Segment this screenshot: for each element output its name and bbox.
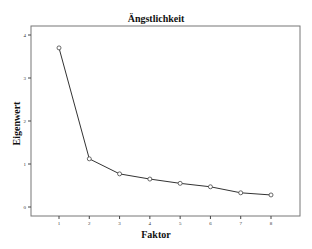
y-tick-label: 1 — [24, 162, 27, 167]
x-tick-label: 4 — [149, 221, 152, 226]
data-point-marker — [118, 172, 122, 176]
eigenvalue-line — [59, 48, 271, 195]
y-tick-label: 4 — [24, 33, 27, 38]
data-point-marker — [57, 46, 61, 50]
y-tick-label: 2 — [24, 119, 27, 124]
y-tick-label: 3 — [24, 76, 27, 81]
data-point-marker — [208, 185, 212, 189]
x-tick-label: 6 — [209, 221, 212, 226]
data-point-marker — [148, 177, 152, 181]
y-axis-label: Eigenwert — [11, 94, 22, 154]
x-tick-label: 1 — [58, 221, 61, 226]
x-tick-label: 2 — [88, 221, 91, 226]
x-tick-label: 5 — [179, 221, 182, 226]
y-tick-label: 0 — [24, 205, 27, 210]
plot-frame — [31, 26, 300, 216]
data-point-marker — [87, 157, 91, 161]
x-axis-label: Faktor — [0, 229, 312, 240]
data-point-marker — [178, 181, 182, 185]
data-point-marker — [239, 191, 243, 195]
x-tick-label: 7 — [239, 221, 242, 226]
x-tick-label: 8 — [270, 221, 273, 226]
x-tick-label: 3 — [118, 221, 121, 226]
scree-plot: Ängstlichkeit 0123412345678 Eigenwert Fa… — [0, 0, 312, 249]
data-point-marker — [269, 193, 273, 197]
plot-area: 0123412345678 — [0, 0, 312, 249]
